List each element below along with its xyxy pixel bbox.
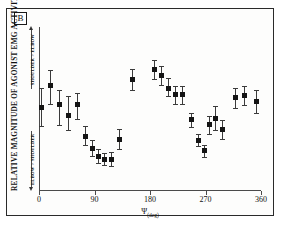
data-point-marker [83,134,88,139]
x-axis-unit: (deg) [147,212,159,218]
data-point-marker [180,92,185,97]
error-bar [59,90,60,125]
data-point-marker [254,99,259,104]
data-point-marker [130,77,135,82]
figure-container: B RELATIVE MAGNITUDE OF AGONIST EMG ACTI… [0,0,282,229]
error-bar-cap-bottom [83,145,88,146]
data-point-marker [66,113,71,118]
error-bar-cap-top [90,140,95,141]
error-bar-cap-bottom [159,85,164,86]
error-bar-cap-top [254,90,259,91]
error-bar-cap-top [189,113,194,114]
error-bar-cap-top [180,86,185,87]
data-point-marker [90,146,95,151]
data-point-marker [117,137,122,142]
error-bar-cap-bottom [102,165,107,166]
data-point-marker [75,102,80,107]
error-bar-cap-bottom [57,125,62,126]
error-bar-cap-top [39,88,44,89]
error-bar-cap-top [196,134,201,135]
error-bar-cap-top [66,96,71,97]
error-bar-cap-bottom [189,127,194,128]
error-bar-cap-bottom [254,113,259,114]
bracket-upper-label: SHOULDER > ELBOW [28,30,38,89]
data-point-marker [220,127,225,132]
error-bar-cap-top [166,78,171,79]
data-point-marker [102,157,107,162]
data-point-marker [39,105,44,110]
error-bar-cap-bottom [39,126,44,127]
error-bar-cap-bottom [207,134,212,135]
data-point-marker [233,95,238,100]
error-bar-cap-bottom [117,149,122,150]
error-bar-cap-bottom [90,156,95,157]
error-bar-cap-bottom [242,105,247,106]
error-bar-cap-top [117,129,122,130]
x-tick-label: 360 [255,195,267,204]
error-bar-cap-top [159,66,164,67]
error-bar-cap-bottom [196,146,201,147]
bracket-lower-label: ELBOW > SHOULDER [28,131,38,186]
error-bar-cap-bottom [233,108,238,109]
x-tick-label: 90 [91,195,99,204]
error-bar-cap-bottom [180,104,185,105]
error-bar-cap-bottom [109,166,114,167]
x-tick-label: 180 [144,195,156,204]
error-bar-cap-bottom [48,104,53,105]
arrow-down-icon [29,187,33,191]
data-point-marker [159,73,164,78]
error-bar-cap-top [75,93,80,94]
error-bar-cap-top [48,70,53,71]
error-bar-cap-bottom [96,163,101,164]
error-bar-cap-top [233,88,238,89]
error-bar-cap-bottom [66,130,71,131]
error-bar-cap-top [130,69,135,70]
x-axis-label: Ψ(deg) [141,207,159,218]
data-point-marker [173,92,178,97]
data-point-marker [96,154,101,159]
error-bar-cap-bottom [173,104,178,105]
error-bar-cap-top [83,126,88,127]
data-point-marker [242,93,247,98]
error-bar-cap-bottom [130,90,135,91]
data-point-marker [152,67,157,72]
error-bar-cap-top [57,90,62,91]
y-axis-title: RELATIVE MAGNITUDE OF AGONIST EMG ACTIVI… [9,27,21,191]
error-bar-cap-top [109,152,114,153]
error-bar-cap-top [173,86,178,87]
x-tick-label: 270 [200,195,212,204]
data-point-marker [213,116,218,121]
error-bar-cap-bottom [152,79,157,80]
error-bar-cap-bottom [220,139,225,140]
error-bar-cap-top [152,60,157,61]
error-bar-cap-top [220,120,225,121]
x-tick-label: 0 [37,195,41,204]
error-bar-cap-top [202,145,207,146]
error-bar-cap-bottom [202,157,207,158]
data-point-marker [57,102,62,107]
data-point-marker [166,86,171,91]
data-point-marker [189,117,194,122]
error-bar-cap-bottom [213,130,218,131]
error-bar-cap-bottom [75,119,80,120]
data-point-marker [196,138,201,143]
error-bar-cap-top [207,116,212,117]
data-point-marker [202,148,207,153]
error-bar-cap-top [102,153,107,154]
plot-area: 090180270360 Ψ(deg) [39,27,261,191]
error-bar-cap-top [96,149,101,150]
data-point-marker [48,83,53,88]
data-point-marker [109,157,114,162]
error-bar-cap-bottom [166,96,171,97]
error-bar-cap-top [213,106,218,107]
error-bar-cap-top [242,86,247,87]
data-point-marker [207,122,212,127]
